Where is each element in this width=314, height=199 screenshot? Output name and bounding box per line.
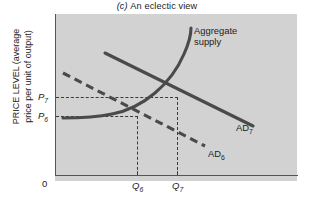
ad6-label: AD6 [208, 148, 225, 163]
ad6-curve [63, 73, 205, 146]
aggregate-supply-label-line1: Aggregate [194, 25, 237, 36]
aggregate-supply-label: Aggregate supply [194, 25, 237, 47]
ad7-label: AD7 [236, 122, 253, 137]
figure-container: (c) An eclectic view PRICE LEVEL (averag… [0, 0, 314, 199]
aggregate-supply-label-line2: supply [194, 36, 221, 47]
ad6-label-sub: 6 [221, 154, 225, 161]
ad7-label-text: AD [236, 122, 249, 133]
ad7-label-sub: 7 [249, 128, 253, 135]
ad6-label-text: AD [208, 148, 221, 159]
curves-layer [0, 0, 314, 199]
